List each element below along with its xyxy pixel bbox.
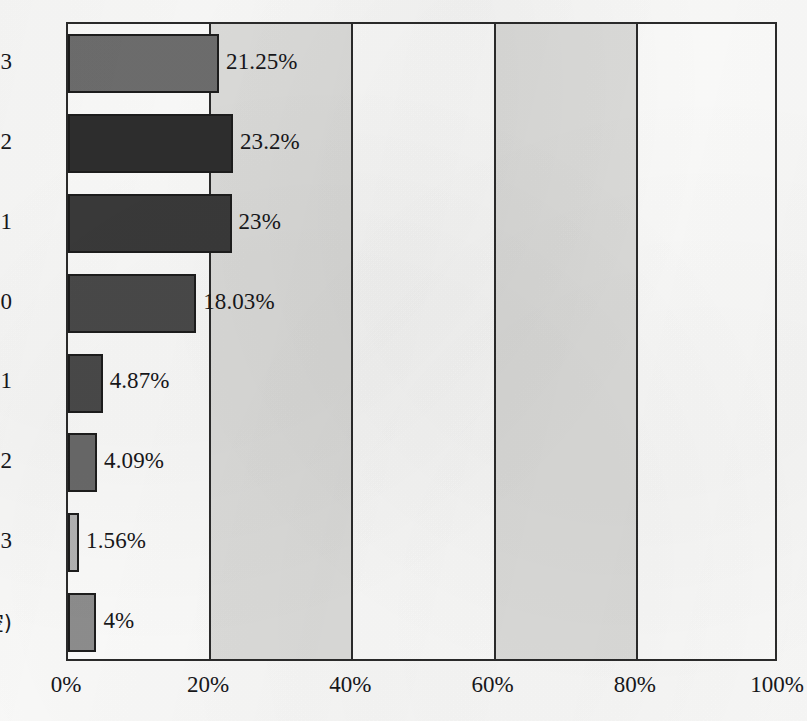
y-axis-tick-label: −3 <box>0 528 12 554</box>
y-axis-tick-label: 1 <box>1 209 13 235</box>
x-axis-tick-label: 100% <box>750 672 804 698</box>
x-axis-tick-label: 60% <box>472 672 514 698</box>
y-axis-tick-label: −2 <box>0 448 12 474</box>
bar[interactable] <box>68 274 196 333</box>
x-axis-tick-label: 80% <box>614 672 656 698</box>
bar-value-label: 18.03% <box>203 289 275 315</box>
x-axis-tick-label: 40% <box>329 672 371 698</box>
bar-value-label: 4% <box>103 608 134 634</box>
plot-area <box>66 22 777 661</box>
bar-value-label: 4.87% <box>110 368 170 394</box>
bar[interactable] <box>68 513 79 572</box>
bar-value-label: 21.25% <box>226 49 298 75</box>
y-axis-tick-label: −1 <box>0 368 12 394</box>
gridline <box>636 24 638 659</box>
bar-chart: 21.25%23.2%23%18.03%4.87%4.09%1.56%4% 32… <box>0 0 807 721</box>
bar-value-label: 1.56% <box>86 528 146 554</box>
gridline <box>351 24 353 659</box>
y-axis-tick-label: 3 <box>1 49 13 75</box>
y-axis-tick-label: 0 <box>1 289 13 315</box>
bar[interactable] <box>68 34 219 93</box>
bar-value-label: 23.2% <box>240 129 300 155</box>
x-axis-tick-label: 0% <box>51 672 82 698</box>
y-axis-tick-label: 2 <box>1 129 13 155</box>
gridline <box>494 24 496 659</box>
bar[interactable] <box>68 114 233 173</box>
bar[interactable] <box>68 194 232 253</box>
bar-value-label: 4.09% <box>104 448 164 474</box>
bar[interactable] <box>68 593 96 652</box>
bar[interactable] <box>68 354 103 413</box>
bar[interactable] <box>68 433 97 492</box>
background-band <box>495 24 637 659</box>
y-axis-tick-label: (空) <box>0 606 12 636</box>
bar-value-label: 23% <box>239 209 281 235</box>
x-axis-tick-label: 20% <box>187 672 229 698</box>
